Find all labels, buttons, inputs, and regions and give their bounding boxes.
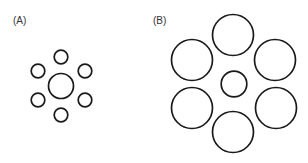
- ebbinghaus-figure: [0, 0, 308, 163]
- surround-circle: [31, 64, 45, 78]
- panel-b: [172, 15, 297, 153]
- surround-circle: [172, 40, 213, 81]
- surround-circle: [256, 88, 297, 129]
- surround-circle: [31, 93, 45, 107]
- surround-circle: [172, 88, 213, 129]
- center-circle: [221, 71, 247, 97]
- surround-circle: [255, 40, 296, 81]
- surround-circle: [54, 108, 68, 122]
- surround-circle: [78, 64, 92, 78]
- surround-circle: [213, 15, 254, 56]
- panel-a: [31, 50, 92, 122]
- surround-circle: [54, 50, 68, 64]
- center-circle: [49, 74, 74, 99]
- surround-circle: [213, 112, 254, 153]
- surround-circle: [78, 93, 92, 107]
